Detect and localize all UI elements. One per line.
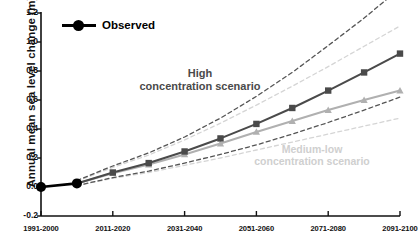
x-axis-tick-label: 1991-2000	[23, 224, 58, 233]
data-point-marker-square	[146, 160, 152, 166]
data-point-marker-square	[361, 69, 367, 75]
legend: Observed	[62, 19, 155, 31]
x-axis-tick-label: 2031-2040	[167, 224, 202, 233]
x-axis-tick-label: 2091-2100	[382, 224, 417, 233]
legend-item-observed-label: Observed	[102, 19, 155, 31]
data-point-marker-circle	[36, 182, 46, 192]
x-axis-tick-label: 2071-2080	[310, 224, 345, 233]
series-line-3	[77, 97, 400, 186]
data-point-marker-square	[253, 121, 259, 127]
legend-observed-line-swatch	[62, 24, 96, 27]
data-point-marker-square	[325, 87, 331, 93]
x-axis-tick-label: 2011-2020	[95, 224, 130, 233]
legend-observed-marker-icon	[73, 20, 84, 31]
x-axis-tick-label: 2051-2060	[239, 224, 274, 233]
data-point-marker-square	[289, 105, 295, 111]
data-point-marker-square	[110, 169, 116, 175]
annotation-medium-low-scenario: Medium-low concentration scenario	[234, 143, 390, 167]
data-point-marker-circle	[72, 178, 82, 188]
series-line-0	[41, 183, 77, 187]
data-point-marker-square	[217, 135, 223, 141]
annotation-high-scenario: High concentration scenario	[124, 67, 276, 92]
data-point-marker-square	[397, 50, 403, 56]
data-point-marker-square	[181, 148, 187, 154]
